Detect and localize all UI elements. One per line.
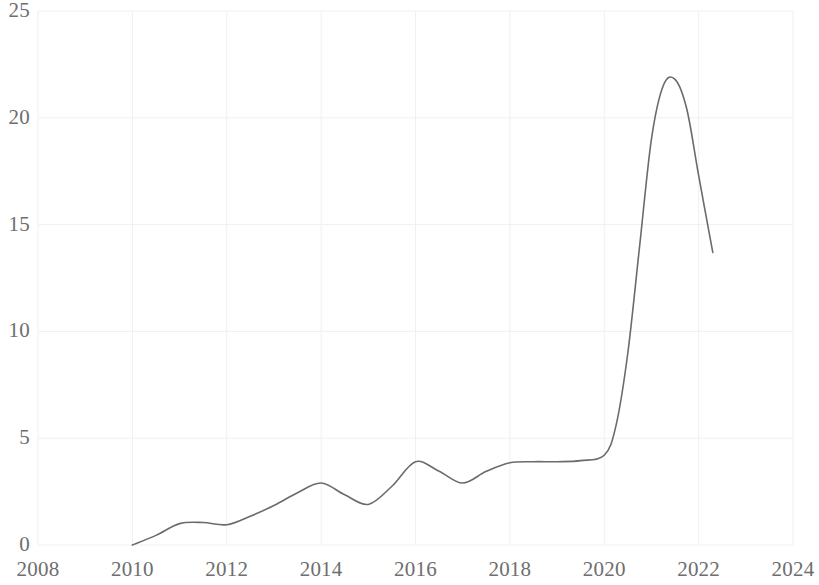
- gridlines: [38, 11, 793, 545]
- x-tick-label: 2014: [281, 557, 361, 582]
- x-tick-label: 2024: [753, 557, 819, 582]
- y-tick-label: 5: [19, 425, 30, 450]
- x-tick-label: 2016: [376, 557, 456, 582]
- y-tick-label: 25: [9, 0, 30, 23]
- y-tick-label: 0: [19, 532, 30, 557]
- x-tick-label: 2010: [92, 557, 172, 582]
- x-tick-label: 2022: [659, 557, 739, 582]
- x-tick-label: 2012: [187, 557, 267, 582]
- y-tick-label: 15: [9, 212, 30, 237]
- x-tick-label: 2018: [470, 557, 550, 582]
- x-tick-label: 2020: [564, 557, 644, 582]
- y-tick-label: 20: [9, 105, 30, 130]
- x-tick-label: 2008: [0, 557, 78, 582]
- data-series-layer: [132, 77, 712, 545]
- data-line-series-1: [132, 77, 712, 545]
- y-tick-label: 10: [9, 318, 30, 343]
